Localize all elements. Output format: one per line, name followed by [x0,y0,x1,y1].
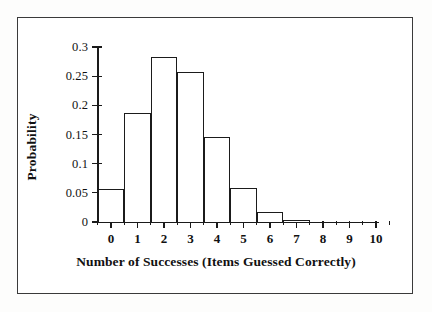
x-axis-title: Number of Successes (Items Guessed Corre… [38,254,394,270]
x-axis-tick [322,221,323,228]
x-axis-tick-label: 10 [361,231,391,246]
figure-canvas: 00.050.10.150.20.250.3 012345678910 Prob… [0,0,432,312]
x-axis-tick [243,221,244,228]
x-axis-tick-label: 8 [308,231,338,246]
histogram-bar [257,212,284,223]
histogram-bar [230,188,257,222]
x-axis-tick [375,221,376,228]
y-axis-tick-label: 0.25 [28,70,88,82]
x-axis-tick [137,221,138,228]
x-axis-tick [389,221,390,225]
y-axis-tick-label: 0 [28,216,88,228]
y-axis-tick-label-text: 0.25 [28,70,88,82]
y-axis-tick-label: 0.3 [28,41,88,53]
x-axis-tick [190,221,191,228]
x-axis-tick-label: 7 [282,231,312,246]
y-axis-tick [92,105,102,106]
x-axis-tick-label: 6 [255,231,285,246]
histogram-bar [98,189,125,222]
x-axis-tick [163,221,164,228]
y-axis-tick [92,163,102,164]
x-axis-tick [336,221,337,225]
x-axis-tick [269,221,270,228]
y-axis-tick [92,76,102,77]
plot-area: 00.050.10.150.20.250.3 012345678910 Prob… [0,0,432,312]
x-axis-tick [296,221,297,228]
x-axis-tick-label: 2 [149,231,179,246]
x-axis-tick-label: 3 [176,231,206,246]
histogram-bar [177,72,204,222]
x-axis-tick-label: 0 [96,231,126,246]
x-axis-tick [362,221,363,225]
histogram-bar [283,220,310,222]
y-axis-tick-label-text: 0 [28,216,88,228]
x-axis-tick-label: 9 [335,231,365,246]
x-axis-tick [110,221,111,228]
y-axis-tick-label-text: 0.3 [28,41,88,53]
histogram-bar [151,57,178,222]
histogram-bar [204,137,231,222]
histogram-bar [124,113,151,222]
x-axis-tick [349,221,350,228]
y-axis-tick [92,46,102,47]
x-axis-tick-label: 4 [202,231,232,246]
x-axis-tick-label: 1 [123,231,153,246]
x-axis-tick [216,221,217,228]
y-axis-title: Probability [24,92,40,202]
x-axis-tick-label: 5 [229,231,259,246]
y-axis-tick [92,134,102,135]
